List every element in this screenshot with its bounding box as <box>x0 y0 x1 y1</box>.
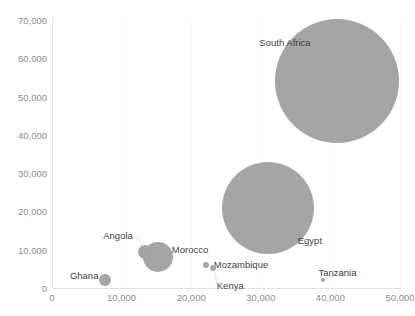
y-tick-label: 50,000 <box>18 91 47 102</box>
y-tick-label: 70,000 <box>18 15 47 26</box>
y-axis-tick-labels: 010,00020,00030,00040,00050,00060,00070,… <box>0 0 47 316</box>
x-tick-label: 40,000 <box>316 292 345 303</box>
point-label-morocco: Morocco <box>172 244 208 255</box>
gridline-vertical <box>400 20 401 288</box>
y-tick-label: 40,000 <box>18 129 47 140</box>
y-tick-label: 20,000 <box>18 206 47 217</box>
point-label-angola: Angola <box>103 230 133 241</box>
x-tick-label: 30,000 <box>246 292 275 303</box>
bubble-mozambique[interactable] <box>203 262 209 268</box>
leader-line <box>134 235 141 246</box>
point-label-ghana: Ghana <box>70 270 99 281</box>
x-tick-label: 0 <box>49 292 54 303</box>
bubble-tanzania[interactable] <box>321 278 325 282</box>
point-label-tanzania: Tanzania <box>318 267 356 278</box>
x-tick-label: 10,000 <box>107 292 136 303</box>
y-tick-label: 30,000 <box>18 168 47 179</box>
x-tick-label: 20,000 <box>177 292 206 303</box>
point-label-south-africa: South Africa <box>259 37 310 48</box>
chart-title <box>60 0 380 3</box>
plot-area: South AfricaEgyptMoroccoAngolaGhanaMozam… <box>52 20 400 288</box>
bubble-kenya[interactable] <box>210 265 216 271</box>
point-label-egypt: Egypt <box>298 235 322 246</box>
y-tick-label: 10,000 <box>18 244 47 255</box>
x-tick-label: 50,000 <box>385 292 414 303</box>
point-label-kenya: Kenya <box>217 280 244 291</box>
bubble-angola[interactable] <box>138 245 152 259</box>
bubble-ghana[interactable] <box>99 274 111 286</box>
gridline-vertical <box>122 20 123 288</box>
y-tick-label: 60,000 <box>18 53 47 64</box>
point-label-mozambique: Mozambique <box>214 259 268 270</box>
y-tick-label: 0 <box>42 283 47 294</box>
